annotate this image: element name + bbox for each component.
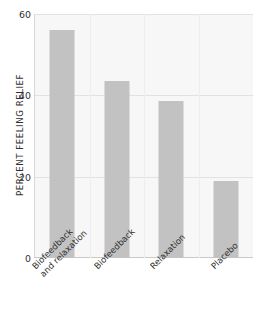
bar-chart-figure: PERCENT FEELING RELIEF 0204060 Biofeedba… bbox=[0, 0, 261, 329]
x-label-slot: Placebo bbox=[198, 258, 253, 329]
bars-layer bbox=[35, 14, 253, 258]
bar-slot bbox=[199, 14, 254, 258]
y-axis-tick-label: 60 bbox=[5, 9, 31, 20]
plot-area bbox=[34, 14, 253, 258]
bar-slot bbox=[90, 14, 145, 258]
y-axis-tick-labels: 0204060 bbox=[0, 0, 31, 329]
x-axis-tick-labels: Biofeedbackand relaxationBiofeedbackRela… bbox=[34, 258, 252, 329]
y-axis-tick-label: 40 bbox=[5, 90, 31, 101]
x-label-slot: Relaxation bbox=[143, 258, 198, 329]
x-label-slot: Biofeedbackand relaxation bbox=[34, 258, 89, 329]
bar-slot bbox=[35, 14, 90, 258]
bar-slot bbox=[144, 14, 199, 258]
y-axis-tick-label: 0 bbox=[5, 253, 31, 264]
x-label-slot: Biofeedback bbox=[89, 258, 144, 329]
y-axis-tick-label: 20 bbox=[5, 171, 31, 182]
